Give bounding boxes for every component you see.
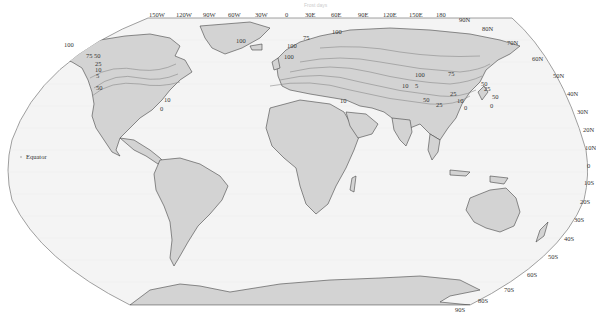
lat-label: 70S [504, 286, 515, 293]
contour-label: 100 [287, 42, 297, 49]
lat-label: 20N [583, 126, 595, 133]
contour-label: 50 [423, 96, 430, 103]
contour-label: 0 [160, 105, 163, 112]
lat-label: 30S [574, 216, 585, 223]
contour-label: 10 [457, 97, 464, 104]
contour-label: 10 [164, 96, 171, 103]
lon-label: 120W [176, 11, 193, 18]
lon-label: 30E [305, 11, 316, 18]
lat-label: 40S [564, 235, 575, 242]
lon-label: 90E [358, 11, 369, 18]
contour-label: 50 [492, 93, 499, 100]
lat-label: 20S [580, 198, 591, 205]
contour-label: 75 [448, 70, 455, 77]
lat-label: 70N [507, 39, 519, 46]
contour-label: 100 [64, 41, 74, 48]
longitude-labels: 150W 120W 90W 60W 30W 0 30E 60E 90E 120E… [149, 11, 446, 18]
contour-label: 5 [415, 82, 418, 89]
lat-label: 80S [478, 297, 489, 304]
lon-label: 180 [436, 11, 446, 18]
world-map: Frost days [0, 0, 596, 312]
contour-label: 50 [94, 52, 101, 59]
lat-label: 30N [577, 108, 589, 115]
lat-label: 60S [527, 271, 538, 278]
contour-label: 25 [450, 90, 457, 97]
contour-label: 100 [284, 53, 294, 60]
contour-label: 25 [484, 85, 491, 92]
contour-label: 100 [415, 71, 425, 78]
contour-label: 100 [236, 37, 246, 44]
lon-label: 120E [383, 11, 397, 18]
lon-label: 0 [285, 11, 288, 18]
lon-label: 60E [331, 11, 342, 18]
lat-label: 50S [548, 253, 559, 260]
contour-label: 75 [303, 34, 310, 41]
lat-label: 0 [587, 162, 590, 169]
contour-label: 100 [332, 28, 342, 35]
lat-label: 10S [584, 179, 595, 186]
equator-marker [20, 156, 22, 158]
contour-label: 0 [464, 104, 467, 111]
lat-label: 60N [532, 55, 544, 62]
lon-label: 150W [149, 11, 166, 18]
contour-label: 10 [340, 97, 347, 104]
lon-label: 90W [203, 11, 217, 18]
contour-label: 50 [96, 84, 103, 91]
lon-label: 60W [228, 11, 242, 18]
equator-label: Equator [26, 153, 47, 160]
lat-label: 90N [459, 16, 471, 23]
lon-label: 150E [409, 11, 423, 18]
lat-label: 50N [553, 72, 565, 79]
lat-label: 90S [455, 306, 466, 312]
map-title: Frost days [304, 2, 328, 8]
lat-label: 40N [567, 90, 579, 97]
contour-label: 5 [96, 72, 99, 79]
contour-label: 75 [86, 52, 93, 59]
lon-label: 30W [255, 11, 269, 18]
lat-label: 80N [482, 25, 494, 32]
contour-label: 0 [490, 102, 493, 109]
lat-label: 10N [585, 144, 596, 151]
contour-label: 25 [436, 101, 443, 108]
contour-label: 10 [402, 82, 409, 89]
